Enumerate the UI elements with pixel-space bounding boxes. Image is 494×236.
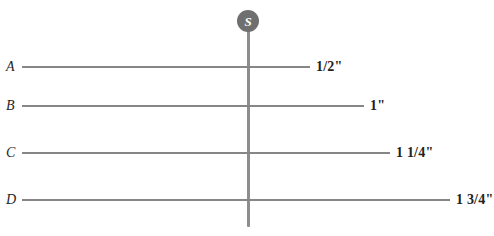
measurement-row: A1/2": [0, 55, 494, 79]
measurement-label: 1": [370, 94, 385, 118]
row-letter-c: C: [6, 141, 22, 165]
measurement-row: C1 1/4": [0, 141, 494, 165]
measurement-line: [22, 199, 450, 201]
row-letter-a: A: [6, 55, 22, 79]
measurement-label: 1/2": [316, 55, 342, 79]
screw-head-letter: S: [244, 14, 251, 27]
row-letter-d: D: [6, 188, 22, 212]
measurement-line: [22, 152, 390, 154]
row-letter-b: B: [6, 94, 22, 118]
measurement-label: 1 3/4": [456, 188, 493, 212]
screw-head-marker-icon: S: [237, 10, 259, 32]
diagram-canvas: S A1/2"B1"C1 1/4"D1 3/4": [0, 0, 494, 236]
measurement-row: D1 3/4": [0, 188, 494, 212]
measurement-row: B1": [0, 94, 494, 118]
measurement-label: 1 1/4": [396, 141, 433, 165]
measurement-line: [22, 105, 364, 107]
measurement-line: [22, 66, 310, 68]
